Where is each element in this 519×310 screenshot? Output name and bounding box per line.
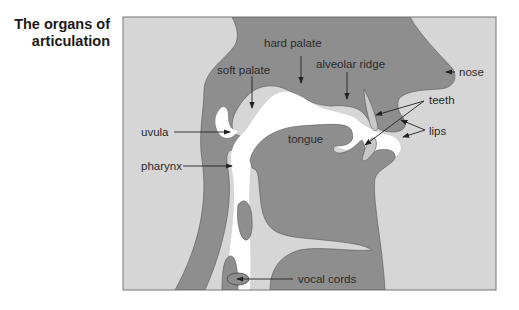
label-nose: nose [459,66,484,78]
label-pharynx: pharynx [141,160,182,172]
label-tongue: tongue [288,133,323,145]
label-vocal-cords: vocal cords [298,273,356,285]
label-hard-palate: hard palate [264,37,322,49]
label-alveolar-ridge: alveolar ridge [316,58,385,70]
vocal-tract-diagram: hard palate soft palate alveolar ridge n… [0,0,519,310]
label-teeth: teeth [429,94,455,106]
label-lips: lips [429,125,447,137]
label-soft-palate: soft palate [217,64,270,76]
label-uvula: uvula [141,126,169,138]
